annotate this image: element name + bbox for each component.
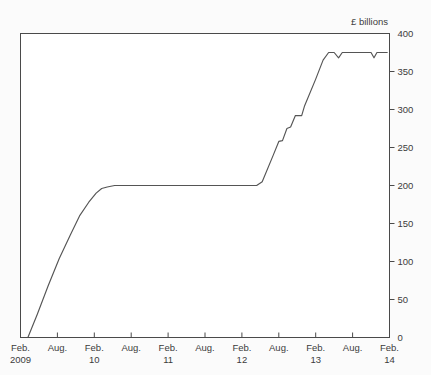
y-tick-label: 50 (398, 294, 409, 305)
x-tick-label: Aug. (269, 342, 289, 353)
x-tick-label: Feb. (232, 342, 251, 353)
x-year-label: 12 (237, 354, 248, 365)
x-tick-label: Aug. (195, 342, 215, 353)
y-axis-unit-label: £ billions (351, 16, 388, 27)
x-year-label: 2009 (10, 354, 31, 365)
line-chart: £ billions 050100150200250300350400 Feb.… (0, 0, 431, 375)
x-year-label: 13 (310, 354, 321, 365)
y-tick-label: 250 (398, 142, 414, 153)
x-tick-label: Feb. (11, 342, 30, 353)
x-tick-label: Feb. (306, 342, 325, 353)
y-tick-label: 400 (398, 28, 414, 39)
x-tick-label: Feb. (380, 342, 399, 353)
y-tick-label: 200 (398, 180, 414, 191)
x-year-label: 10 (89, 354, 100, 365)
x-tick-label: Aug. (343, 342, 363, 353)
y-tick-label: 350 (398, 66, 414, 77)
chart-container: £ billions 050100150200250300350400 Feb.… (0, 0, 431, 375)
y-tick-label: 100 (398, 256, 414, 267)
x-year-label: 14 (384, 354, 395, 365)
x-year-label: 11 (163, 354, 173, 365)
x-tick-label: Aug. (121, 342, 141, 353)
y-tick-label: 300 (398, 104, 414, 115)
x-tick-label: Feb. (85, 342, 104, 353)
x-tick-label: Aug. (48, 342, 68, 353)
x-tick-label: Feb. (159, 342, 178, 353)
y-tick-label: 150 (398, 218, 414, 229)
